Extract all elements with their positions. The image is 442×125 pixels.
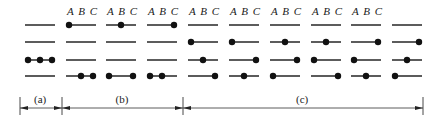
electron-dot: [229, 39, 235, 45]
column-header-abc: A B C: [312, 5, 343, 17]
arrow-left-icon: [183, 106, 191, 110]
column-header-abc: A B C: [230, 5, 261, 17]
electron-dot: [147, 73, 153, 79]
electron-dot: [335, 73, 341, 79]
arrow-left-icon: [62, 106, 70, 110]
electron-dot: [66, 22, 72, 28]
electron-dot: [37, 57, 43, 63]
group-label: (c): [296, 93, 308, 105]
electron-dot: [106, 73, 112, 79]
electron-dot: [311, 57, 317, 63]
group-label: (b): [116, 93, 129, 105]
electron-dot: [188, 39, 194, 45]
arrow-right-icon: [415, 106, 423, 110]
arrow-right-icon: [54, 106, 62, 110]
group-label: (a): [34, 93, 46, 105]
electron-dot: [90, 73, 96, 79]
electron-dot: [130, 73, 136, 79]
electron-dot: [253, 57, 259, 63]
electron-dot: [294, 57, 300, 63]
electron-dot: [270, 73, 276, 79]
electron-dot: [78, 73, 84, 79]
electron-dot: [49, 57, 55, 63]
electron-dot: [212, 73, 218, 79]
electron-dot: [404, 57, 410, 63]
electron-dot: [25, 57, 31, 63]
electron-dot: [351, 57, 357, 63]
arrow-right-icon: [175, 106, 183, 110]
electron-dot: [159, 73, 165, 79]
electron-dot: [363, 73, 369, 79]
electron-dot: [375, 39, 381, 45]
column-header-abc: A B C: [148, 5, 179, 17]
column-header-abc: A B C: [271, 5, 302, 17]
electron-dot: [200, 57, 206, 63]
electron-dot: [118, 22, 124, 28]
column-header-abc: A B C: [189, 5, 220, 17]
electron-dot: [323, 39, 329, 45]
electron-dot: [416, 39, 422, 45]
electron-dot: [241, 73, 247, 79]
column-header-abc: A B C: [352, 5, 383, 17]
electron-dot: [282, 39, 288, 45]
electron-dot: [171, 22, 177, 28]
electron-dot: [392, 73, 398, 79]
arrow-left-icon: [20, 106, 28, 110]
diagram-canvas: [0, 0, 442, 125]
column-header-abc: A B C: [107, 5, 138, 17]
column-header-abc: A B C: [67, 5, 98, 17]
